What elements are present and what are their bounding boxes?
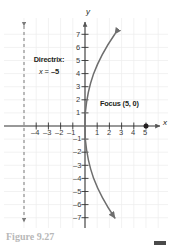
figure-parabola-focus-directrix: –4 –3 –2 –1 1 2 3 4 5 7 6 5 4 3 2 1 –1 –… — [0, 0, 170, 247]
y-tick-label-3: 3 — [76, 83, 80, 91]
figure-caption-text: Figure 9.27 — [6, 232, 54, 242]
y-tick-label-6: 6 — [76, 44, 80, 52]
x-tick-label-2: 2 — [107, 129, 111, 137]
y-tick-label--6: –6 — [73, 201, 81, 209]
y-tick-label--5: –5 — [73, 188, 81, 196]
y-tick-label-5: 5 — [76, 57, 80, 65]
y-axis-label: y — [86, 8, 90, 16]
page-edge-mark — [154, 241, 166, 245]
y-tick-label-1: 1 — [76, 109, 80, 117]
x-tick-label-5: 5 — [143, 129, 147, 137]
plot-svg — [0, 0, 170, 232]
x-tick-label--2: –2 — [55, 129, 63, 137]
directrix-annotation-equation: x = –5 — [25, 68, 73, 76]
coordinate-plane: –4 –3 –2 –1 1 2 3 4 5 7 6 5 4 3 2 1 –1 –… — [0, 0, 170, 232]
y-tick-label--4: –4 — [73, 175, 81, 183]
y-tick-label--3: –3 — [73, 162, 81, 170]
x-tick-label-4: 4 — [131, 129, 135, 137]
y-tick-label-2: 2 — [76, 96, 80, 104]
x-tick-label-1: 1 — [95, 129, 99, 137]
y-tick-label--2: –2 — [73, 148, 81, 156]
x-tick-label--4: –4 — [31, 129, 39, 137]
grid-lines — [4, 18, 168, 228]
x-axis-label: x — [163, 119, 167, 127]
y-tick-label-4: 4 — [76, 70, 80, 78]
x-tick-label--3: –3 — [43, 129, 51, 137]
figure-caption-strip: Figure 9.27 — [0, 232, 170, 247]
directrix-annotation-label: Directrix: — [25, 56, 73, 63]
y-tick-label-7: 7 — [76, 31, 80, 39]
focus-annotation-label: Focus (5, 0) — [100, 100, 139, 107]
x-axis — [4, 123, 160, 130]
y-tick-label--7: –7 — [73, 214, 81, 222]
y-tick-label--1: –1 — [73, 135, 81, 143]
x-tick-label-3: 3 — [119, 129, 123, 137]
